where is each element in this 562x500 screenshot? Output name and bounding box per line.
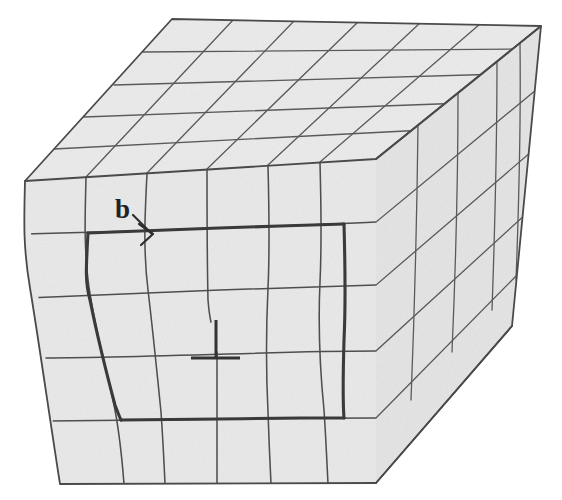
figure-root: b [0, 0, 562, 500]
front-face-fill [25, 159, 376, 484]
crystal-block-diagram: b [0, 0, 562, 500]
burgers-vector-label: b [115, 194, 130, 224]
